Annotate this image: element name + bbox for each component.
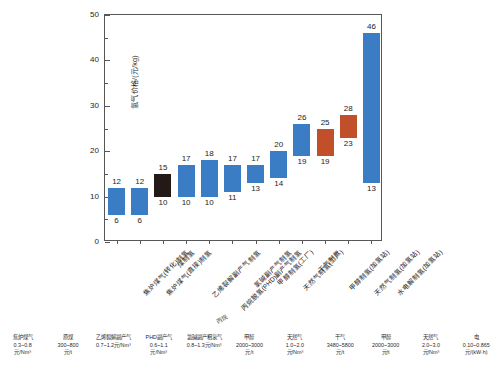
bar-value-low: 13 (354, 185, 388, 193)
plot-area: 氢气价格/(元/kg) 01020304050 1261261510171018… (104, 14, 382, 241)
feedstock-unit: 元/t (227, 349, 272, 357)
bar-value-high: 15 (146, 164, 180, 172)
feedstock-unit: 元/(kW·h) (454, 349, 499, 357)
bar-value-low: 6 (123, 217, 157, 225)
bar (293, 124, 310, 156)
feedstock-unit: 元/t (45, 349, 90, 357)
feedstock-legend-cell: 甲醇2000~3000元/t (363, 334, 408, 357)
y-tick-mark-minor (105, 174, 108, 175)
bar (201, 160, 218, 196)
feedstock-name: 电 (454, 334, 499, 342)
bar (154, 174, 171, 197)
feedstock-legend-cell: 天然气2.0~3.0元/Nm³ (408, 334, 453, 357)
x-tick-mark (279, 240, 280, 244)
feedstock-legend-cell: 乙烯裂解副产气0.7~1.2元/Nm³ (91, 334, 136, 349)
bar (340, 115, 357, 138)
y-tick-mark-minor (105, 129, 108, 130)
y-tick-mark (105, 151, 110, 152)
x-tick-mark (348, 240, 349, 244)
bar-value-low: 11 (215, 194, 249, 202)
feedstock-unit: 元/t (318, 349, 363, 357)
y-tick-label: 0 (75, 238, 99, 246)
y-tick-label: 10 (75, 193, 99, 201)
y-tick-label: 20 (75, 147, 99, 155)
bar-value-high: 12 (123, 178, 157, 186)
feedstock-price: 0.3~0.8 (0, 342, 45, 350)
feedstock-legend-row: 焦炉煤气0.3~0.8元/Nm³原煤300~800元/t乙烯裂解副产气0.7~1… (0, 330, 499, 371)
feedstock-name: 干气 (318, 334, 363, 342)
feedstock-name: 甲醇 (227, 334, 272, 342)
feedstock-price: 0.8~1.3元/Nm³ (181, 342, 226, 350)
y-tick-mark (105, 242, 110, 243)
x-tick-mark (302, 240, 303, 244)
feedstock-legend-cell: 原煤300~800元/t (45, 334, 90, 357)
y-tick-label: 30 (75, 102, 99, 110)
y-tick-label: 50 (75, 11, 99, 19)
y-tick-label: 40 (75, 56, 99, 64)
feedstock-legend-cell: 甲醇2000~3000元/t (227, 334, 272, 357)
x-tick-mark (209, 240, 210, 244)
legend-extra-label: 丙烷 (214, 312, 229, 326)
x-tick-mark (117, 240, 118, 244)
feedstock-unit: 元/Nm³ (0, 349, 45, 357)
feedstock-name: 乙烯裂解副产气 (91, 334, 136, 342)
feedstock-unit: 元/t (363, 349, 408, 357)
feedstock-legend-cell: 电0.10~0.865元/(kW·h) (454, 334, 499, 357)
feedstock-price: 0.6~1.1 (136, 342, 181, 350)
bar-value-high: 25 (308, 119, 342, 127)
feedstock-unit: 元/Nm³ (408, 349, 453, 357)
feedstock-legend-cell: 干气3480~5800元/t (318, 334, 363, 357)
feedstock-price: 2000~3000 (363, 342, 408, 350)
y-tick-mark (105, 15, 110, 16)
feedstock-name: 天然气 (408, 334, 453, 342)
bar (108, 188, 125, 215)
bar (363, 33, 380, 183)
y-axis-title: 氢气价格/(元/kg) (129, 22, 139, 142)
x-tick-mark (163, 240, 164, 244)
feedstock-unit: 元/Nm³ (136, 349, 181, 357)
feedstock-price: 300~800 (45, 342, 90, 350)
feedstock-name: 原煤 (45, 334, 90, 342)
y-tick-mark-minor (105, 83, 108, 84)
bar-value-low: 19 (308, 158, 342, 166)
bar-value-high: 17 (239, 155, 273, 163)
feedstock-price: 1.0~2.0 (272, 342, 317, 350)
feedstock-legend-cell: PHD副产气0.6~1.1元/Nm³ (136, 334, 181, 357)
bar-value-high: 46 (354, 23, 388, 31)
feedstock-name: 天然气 (272, 334, 317, 342)
feedstock-price: 0.10~0.865 (454, 342, 499, 350)
feedstock-name: 甲醇 (363, 334, 408, 342)
bar (178, 165, 195, 197)
feedstock-name: PHD副产气 (136, 334, 181, 342)
bar-value-low: 23 (331, 140, 365, 148)
feedstock-name: 氯碱副产粗氢气 (181, 334, 226, 342)
x-tick-mark (232, 240, 233, 244)
feedstock-price: 2000~3000 (227, 342, 272, 350)
feedstock-unit: 元/Nm³ (272, 349, 317, 357)
x-tick-mark (325, 240, 326, 244)
y-tick-mark (105, 106, 110, 107)
y-tick-mark (105, 60, 110, 61)
y-tick-mark-minor (105, 38, 108, 39)
feedstock-price: 0.7~1.2元/Nm³ (91, 342, 136, 350)
feedstock-legend-cell: 氯碱副产粗氢气0.8~1.3元/Nm³ (181, 334, 226, 349)
x-tick-mark (256, 240, 257, 244)
x-tick-mark (186, 240, 187, 244)
feedstock-legend-cell: 天然气1.0~2.0元/Nm³ (272, 334, 317, 357)
hydrogen-price-range-chart: 氢气价格/(元/kg) 01020304050 1261261510171018… (0, 0, 499, 371)
bar-value-high: 20 (262, 141, 296, 149)
feedstock-price: 3480~5800 (318, 342, 363, 350)
feedstock-price: 2.0~3.0 (408, 342, 453, 350)
x-tick-mark (371, 240, 372, 244)
bar-value-low: 14 (262, 180, 296, 188)
bar-value-high: 28 (331, 105, 365, 113)
x-tick-mark (140, 240, 141, 244)
feedstock-name: 焦炉煤气 (0, 334, 45, 342)
feedstock-legend-cell: 焦炉煤气0.3~0.8元/Nm³ (0, 334, 45, 357)
